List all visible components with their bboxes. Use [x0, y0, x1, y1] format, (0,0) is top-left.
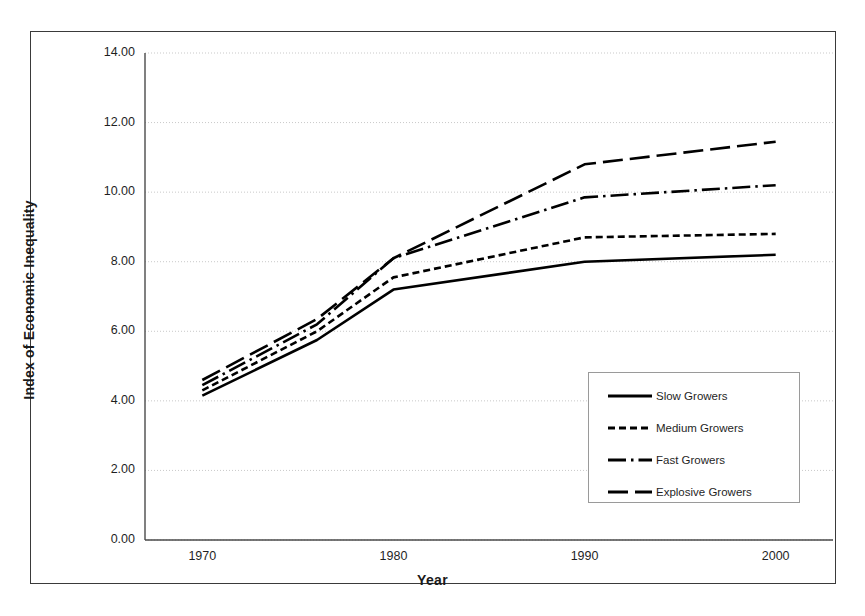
data-series-lines [202, 142, 775, 396]
x-tick-label: 2000 [746, 549, 806, 563]
x-tick-label: 1970 [172, 549, 232, 563]
chart-figure: 0.002.004.006.008.0010.0012.0014.00 1970… [0, 0, 865, 616]
y-tick-label: 8.00 [73, 254, 135, 268]
y-tick-label: 0.00 [73, 532, 135, 546]
x-tick-label: 1980 [363, 549, 423, 563]
x-axis-title: Year [0, 572, 865, 588]
series-line-explosive-growers [202, 142, 775, 380]
legend-line-sample [607, 389, 653, 403]
legend-item-explosive-growers: Explosive Growers [589, 482, 801, 502]
legend-line-sample [607, 485, 653, 499]
y-tick-label: 12.00 [73, 115, 135, 129]
legend-item-label: Explosive Growers [656, 486, 752, 498]
legend-line-sample [607, 421, 653, 435]
x-tick-label: 1990 [555, 549, 615, 563]
y-tick-label: 4.00 [73, 393, 135, 407]
chart-legend: Slow GrowersMedium GrowersFast GrowersEx… [588, 372, 800, 503]
y-axis-title: Index of Economic Inequality [14, 150, 44, 450]
legend-item-label: Medium Growers [656, 422, 744, 434]
legend-line-sample [607, 453, 653, 467]
y-tick-label: 14.00 [73, 45, 135, 59]
line-chart-canvas [0, 0, 865, 616]
y-tick-label: 2.00 [73, 462, 135, 476]
legend-item-slow-growers: Slow Growers [589, 386, 801, 406]
legend-item-fast-growers: Fast Growers [589, 450, 801, 470]
y-tick-label: 10.00 [73, 184, 135, 198]
y-axis-title-text: Index of Economic Inequality [21, 200, 37, 399]
y-tick-label: 6.00 [73, 323, 135, 337]
legend-item-label: Slow Growers [656, 390, 728, 402]
legend-item-medium-growers: Medium Growers [589, 418, 801, 438]
legend-item-label: Fast Growers [656, 454, 725, 466]
